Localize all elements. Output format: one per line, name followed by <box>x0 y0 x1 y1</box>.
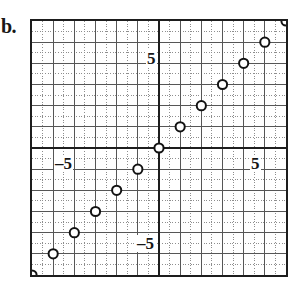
data-point <box>260 38 269 47</box>
data-point <box>49 249 58 258</box>
y-axis-tick-label-negative: –5 <box>136 235 155 252</box>
x-axis-tick-label-negative: –5 <box>54 155 73 172</box>
x-axis-tick-label-positive: 5 <box>250 155 261 172</box>
coordinate-plane: 5 –5 5 –5 <box>30 19 288 277</box>
data-point <box>176 122 185 131</box>
data-point <box>91 207 100 216</box>
data-point <box>133 165 142 174</box>
data-point <box>154 143 163 152</box>
figure-container: b. <box>0 0 301 285</box>
data-point <box>32 270 37 275</box>
data-point <box>281 21 286 26</box>
data-point <box>239 59 248 68</box>
y-axis-tick-label-positive: 5 <box>146 50 157 67</box>
data-point <box>218 80 227 89</box>
grid-layer <box>32 21 286 275</box>
part-label: b. <box>1 16 16 36</box>
grid-and-points-svg <box>32 21 286 275</box>
data-point <box>197 101 206 110</box>
data-point <box>70 228 79 237</box>
data-point <box>112 186 121 195</box>
